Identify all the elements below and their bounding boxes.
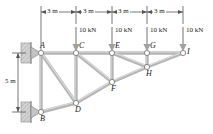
dimension-label-span-4: 3 m [153, 8, 166, 15]
member-F-H [112, 67, 147, 82]
member-A-D [41, 53, 76, 103]
node-label-C: C [79, 42, 84, 50]
joint-A [38, 50, 43, 55]
load-label-I: 10 kN [186, 27, 203, 34]
node-label-D: D [75, 106, 81, 114]
node-label-B: B [40, 115, 45, 123]
load-label-C: 10 kN [79, 27, 96, 34]
node-label-E: E [115, 42, 120, 50]
node-label-H: H [146, 70, 152, 78]
member-E-H [112, 53, 147, 67]
node-label-I: I [187, 48, 190, 56]
load-label-G: 10 kN [150, 27, 167, 34]
member-B-D [41, 103, 76, 112]
truss-diagram: 3 m 3 m 3 m 3 m 5 m 10 kN 10 kN 10 kN 10… [0, 0, 213, 134]
dimension-label-height: 5 m [4, 78, 17, 85]
dimension-label-span-3: 3 m [117, 8, 130, 15]
member-H-I [147, 53, 183, 67]
node-label-G: G [150, 42, 156, 50]
dimension-label-span-2: 3 m [82, 8, 95, 15]
member-D-F [76, 82, 112, 103]
member-C-F [76, 53, 112, 82]
dimension-label-span-1: 3 m [46, 8, 59, 15]
load-label-E: 10 kN [115, 27, 132, 34]
node-label-A: A [40, 42, 45, 50]
node-label-F: F [111, 85, 116, 93]
truss-canvas [0, 0, 213, 134]
